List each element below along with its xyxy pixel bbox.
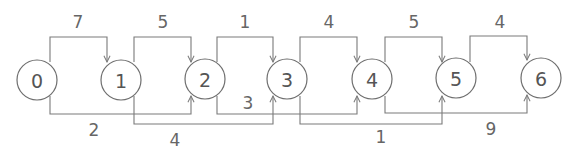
node-1: 1 bbox=[101, 60, 141, 100]
node-label-0: 0 bbox=[31, 70, 43, 92]
edge-2-3: 1 bbox=[217, 12, 273, 62]
node-label-2: 2 bbox=[199, 69, 211, 91]
graph-diagram: 7 5 1 4 5 4 2 4 3 1 9 0 bbox=[0, 0, 578, 152]
node-2: 2 bbox=[185, 59, 225, 99]
node-label-5: 5 bbox=[450, 68, 462, 90]
edge-weight-2-3: 1 bbox=[240, 12, 251, 32]
edge-1-2: 5 bbox=[134, 12, 191, 62]
edge-3-5: 1 bbox=[300, 96, 442, 147]
edge-5-6: 4 bbox=[470, 12, 527, 62]
edge-weight-1-2: 5 bbox=[158, 12, 169, 32]
node-label-1: 1 bbox=[115, 70, 127, 92]
edge-weight-3-5: 1 bbox=[376, 127, 387, 147]
node-label-4: 4 bbox=[366, 69, 378, 91]
edge-weight-1-3: 4 bbox=[170, 130, 181, 150]
node-3: 3 bbox=[267, 59, 307, 99]
edge-0-1: 7 bbox=[50, 12, 107, 62]
edge-weight-3-4: 4 bbox=[324, 12, 335, 32]
edge-4-6: 9 bbox=[385, 95, 527, 139]
edge-weight-4-5: 5 bbox=[409, 12, 420, 32]
edge-4-5: 5 bbox=[385, 12, 442, 62]
node-6: 6 bbox=[521, 58, 561, 98]
edge-weight-0-1: 7 bbox=[73, 12, 84, 32]
node-label-6: 6 bbox=[535, 68, 547, 90]
node-4: 4 bbox=[352, 59, 392, 99]
edge-weight-2-4: 3 bbox=[243, 93, 254, 113]
node-5: 5 bbox=[436, 58, 476, 98]
edge-3-4: 4 bbox=[300, 12, 357, 62]
edge-weight-5-6: 4 bbox=[495, 12, 506, 32]
edge-weight-4-6: 9 bbox=[486, 119, 497, 139]
node-label-3: 3 bbox=[281, 69, 293, 91]
edge-weight-0-2: 2 bbox=[89, 120, 100, 140]
node-0: 0 bbox=[17, 60, 57, 100]
